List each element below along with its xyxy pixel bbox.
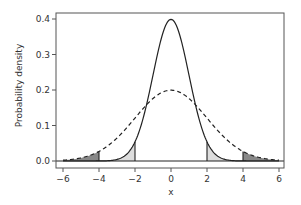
x-tick-label: −2: [128, 174, 141, 184]
x-tick-label: 6: [276, 174, 282, 184]
x-axis-label: x: [168, 187, 174, 197]
x-tick-label: 4: [240, 174, 246, 184]
y-tick-label: 0.3: [36, 50, 50, 60]
x-axis: −6−4−20246: [56, 168, 282, 184]
y-tick-label: 0.2: [36, 85, 50, 95]
plot-frame: [56, 13, 284, 168]
x-tick-label: 2: [204, 174, 210, 184]
y-axis-label: Probability density: [14, 43, 24, 127]
dashed-density-curve: [63, 90, 279, 160]
x-tick-label: 0: [168, 174, 174, 184]
x-tick-label: −6: [56, 174, 70, 184]
x-tick-label: −4: [92, 174, 106, 184]
tail-fill-1-0: [63, 151, 99, 161]
y-tick-label: 0.1: [36, 121, 50, 131]
shaded-tail-regions: [63, 142, 279, 161]
density-chart: −6−4−20246 0.00.10.20.30.4 x Probability…: [0, 0, 301, 205]
y-tick-label: 0.0: [36, 156, 51, 166]
y-axis: 0.00.10.20.30.4: [36, 14, 56, 166]
y-tick-label: 0.4: [36, 14, 51, 24]
density-curves: [63, 19, 279, 161]
